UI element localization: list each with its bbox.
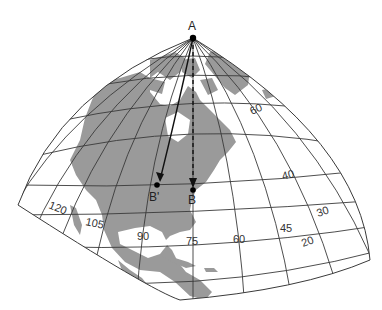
lon-label-75: 75 <box>186 235 198 247</box>
label-b-prime: B' <box>149 190 159 204</box>
lon-label-30: 30 <box>315 204 330 219</box>
hispaniola <box>204 268 218 272</box>
lon-label-120: 120 <box>47 199 69 217</box>
lat-label-20: 20 <box>300 233 316 248</box>
label-a: A <box>188 19 196 33</box>
lat-label-40: 40 <box>280 167 295 182</box>
lon-label-60: 60 <box>233 233 245 245</box>
lon-label-45: 45 <box>280 222 292 234</box>
baja-california <box>70 205 82 235</box>
point-b <box>190 187 196 193</box>
point-a <box>190 35 196 41</box>
lon-label-90: 90 <box>137 230 149 242</box>
point-b-prime <box>154 182 160 188</box>
label-b: B <box>188 193 196 207</box>
land-masses <box>70 48 276 304</box>
lon-label-105: 105 <box>85 215 105 231</box>
projection-map: A B' B 120 105 90 75 60 45 30 60 40 20 <box>0 0 382 310</box>
